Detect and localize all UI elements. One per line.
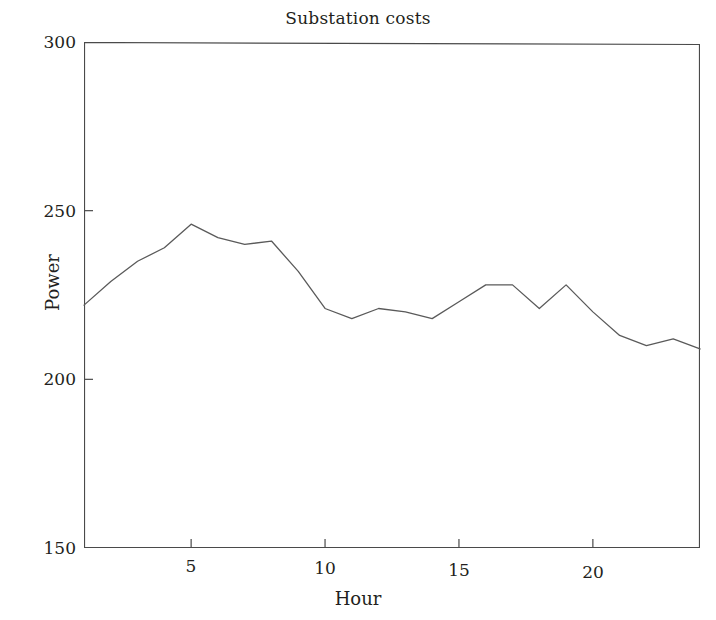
x-tick-label-20: 20 [582,562,604,582]
data-series-layer [84,42,700,548]
x-axis-label: Hour [0,588,716,609]
x-tick-label-15: 15 [448,560,470,580]
chart-figure: Substation costs Power 300 250 200 150 5… [0,0,716,620]
x-tick-label-5: 5 [186,556,197,576]
x-tick-label-10: 10 [314,558,336,578]
series-line-power [84,224,700,349]
plot-area [84,42,700,548]
